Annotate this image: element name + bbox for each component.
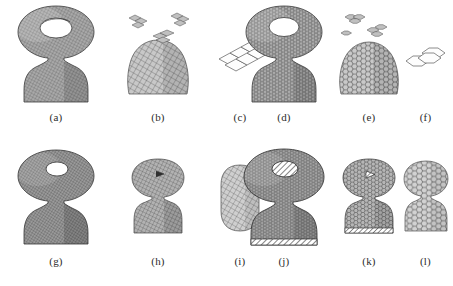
panel-label-j: (j): [279, 256, 290, 267]
panel-l: (l): [398, 143, 453, 286]
panel-e-canvas: [340, 0, 398, 112]
panel-label-b: (b): [151, 112, 164, 123]
panel-label-h: (h): [151, 256, 164, 267]
panel-label-k: (k): [362, 256, 375, 267]
mesh-fragment: [129, 15, 147, 28]
hourglass-hex-mid-render: [336, 154, 402, 244]
hourglass-quad-dense-render: [8, 2, 104, 110]
hourglass-hex-dense-hatched-render: [236, 145, 332, 253]
panel-h-canvas: [112, 143, 204, 255]
panel-label-e: (e): [363, 112, 376, 123]
hourglass-hex-dense-render: [236, 2, 332, 110]
hex-cell-patch-render: [398, 31, 453, 81]
panel-label-f: (f): [420, 112, 432, 123]
panel-d-canvas: [228, 0, 340, 112]
base-block-quad-coarse-render: [115, 4, 201, 108]
hex-cell: [406, 48, 445, 66]
hourglass-quad-dense-dark-render: [10, 145, 102, 253]
mesh-fragment: [341, 31, 352, 35]
panel-label-g: (g): [49, 256, 62, 267]
panel-h: (h): [112, 143, 204, 286]
panel-g: (g): [0, 143, 112, 286]
panel-label-l: (l): [420, 256, 431, 267]
panel-e: (e): [340, 0, 398, 143]
panel-b: (b): [112, 0, 204, 143]
panel-l-canvas: [398, 143, 453, 255]
hourglass-hex-coarse-render: [397, 157, 453, 241]
figure-row-bottom: (g): [0, 143, 453, 286]
panel-b-canvas: [112, 0, 204, 112]
panel-j-canvas: [228, 143, 340, 255]
panel-j: (j): [228, 143, 340, 286]
hourglass-quad-mid-render: [126, 155, 190, 243]
panel-f: (f): [398, 0, 453, 143]
panel-g-canvas: [0, 143, 112, 255]
mesh-fragment: [345, 15, 365, 24]
panel-d: (d): [228, 0, 340, 143]
figure-row-top: (a): [0, 0, 453, 143]
panel-k: (k): [340, 143, 398, 286]
panel-a-canvas: [0, 0, 112, 112]
figure-panel-grid: (a): [0, 0, 453, 286]
panel-a: (a): [0, 0, 112, 143]
mesh-fragment: [367, 25, 387, 37]
panel-k-canvas: [340, 143, 398, 255]
panel-label-a: (a): [50, 112, 63, 123]
panel-f-canvas: [398, 0, 453, 112]
mesh-fragment: [171, 13, 189, 26]
panel-label-d: (d): [277, 112, 290, 123]
